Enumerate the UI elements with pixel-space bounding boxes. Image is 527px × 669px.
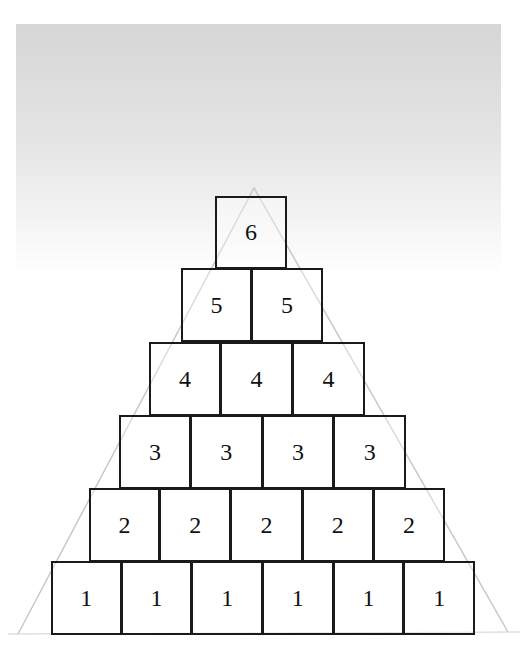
pyramid-block-level-2: 2 [302,488,374,562]
pyramid-block-level-1: 1 [403,561,475,635]
pyramid-block-level-6: 6 [215,196,287,269]
pyramid-block-level-5: 5 [251,268,323,342]
pyramid-block-level-3: 3 [333,415,406,489]
pyramid-block-level-1: 1 [333,561,405,635]
pyramid-block-level-4: 4 [149,342,221,416]
pyramid-block-level-4: 4 [292,342,365,416]
pyramid-block-level-1: 1 [191,561,263,635]
pyramid-block-level-2: 2 [159,488,231,562]
pyramid-block-level-4: 4 [220,342,293,416]
pyramid-block-level-3: 3 [119,415,191,489]
pyramid-block-level-1: 1 [121,561,193,635]
pyramid-block-level-2: 2 [373,488,445,562]
pyramid-block-level-3: 3 [262,415,335,489]
pyramid-block-level-3: 3 [190,415,263,489]
pyramid-block-level-1: 1 [262,561,334,635]
pyramid-block-level-1: 1 [51,561,122,635]
pyramid-block-level-5: 5 [181,268,252,342]
pyramid-block-level-2: 2 [230,488,302,562]
pyramid-block-level-2: 2 [89,488,160,562]
